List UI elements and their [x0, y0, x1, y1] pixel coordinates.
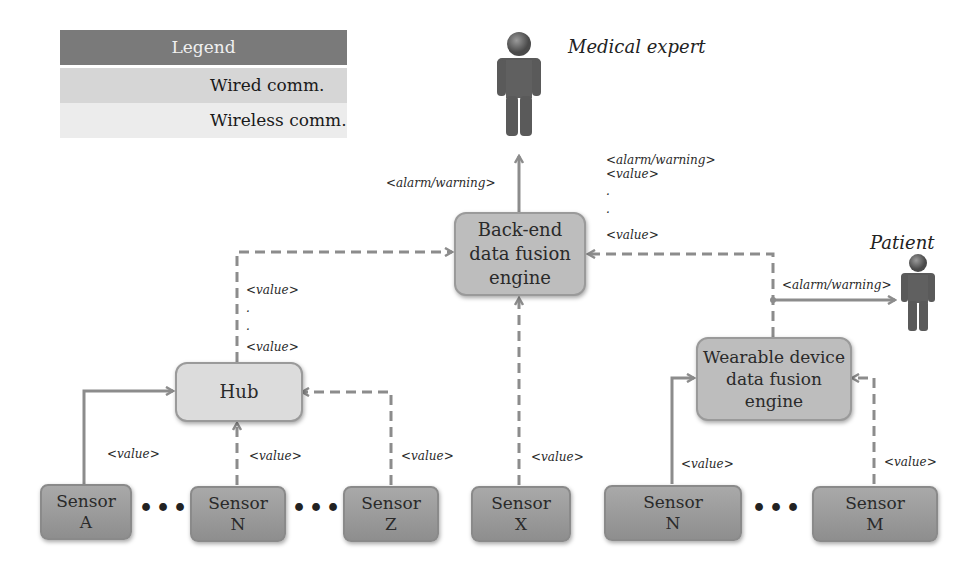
legend-title: Legend: [60, 30, 347, 65]
medical-expert-label: Medical expert: [568, 36, 705, 57]
sensor-m: SensorM: [812, 486, 938, 542]
backend-fusion-engine: Back-end data fusion engine: [454, 212, 586, 296]
label-sensor-m-value: <value>: [884, 455, 937, 469]
label-backend-to-expert: <alarm/warning>: [386, 176, 496, 190]
ellipsis-right: •••: [752, 494, 803, 520]
label-hub-to-backend-3: .: [246, 319, 250, 333]
sensor-n-right-line1: Sensor: [643, 492, 703, 513]
sensor-a-line1: Sensor: [56, 491, 116, 512]
label-hub-to-backend-1: <value>: [246, 283, 299, 297]
sensor-m-line2: M: [845, 514, 905, 535]
medical-expert-icon: [492, 30, 546, 140]
wearable-line-3: engine: [703, 390, 845, 412]
label-hub-to-backend-4: <value>: [246, 340, 299, 354]
legend: Legend Wired comm. Wireless comm.: [60, 30, 347, 138]
sensor-n-right-line2: N: [643, 513, 703, 534]
label-right-to-backend-5: <value>: [606, 228, 659, 242]
sensor-z-line2: Z: [361, 514, 421, 535]
wearable-fusion-engine: Wearable device data fusion engine: [696, 337, 852, 421]
sensor-n-left-line2: N: [208, 514, 268, 535]
legend-wired-label: Wired comm.: [210, 68, 324, 103]
sensor-x-line2: X: [491, 514, 551, 535]
label-hub-to-backend-2: .: [246, 301, 250, 315]
label-wearable-to-patient: <alarm/warning>: [782, 278, 892, 292]
legend-wired-row: Wired comm.: [60, 68, 347, 103]
backend-line-3: engine: [469, 266, 571, 290]
label-right-to-backend-2: <value>: [606, 167, 659, 181]
sensor-n-left-line1: Sensor: [208, 493, 268, 514]
label-sensor-n-right-value: <value>: [681, 457, 734, 471]
legend-wireless-row: Wireless comm.: [60, 103, 347, 138]
ellipsis-left-1: •••: [139, 494, 190, 520]
hub-label: Hub: [220, 380, 259, 404]
wearable-line-2: data fusion: [703, 368, 845, 390]
label-right-to-backend-3: .: [606, 184, 610, 198]
label-right-to-backend-1: <alarm/warning>: [606, 153, 716, 167]
sensor-x: SensorX: [471, 486, 571, 542]
sensor-z-line1: Sensor: [361, 493, 421, 514]
sensor-x-line1: Sensor: [491, 493, 551, 514]
sensor-z: SensorZ: [343, 486, 439, 542]
sensor-a: SensorA: [40, 484, 132, 540]
sensor-a-line2: A: [56, 512, 116, 533]
patient-icon: [898, 253, 938, 333]
sensor-n-right: SensorN: [604, 485, 742, 541]
sensor-n-left: SensorN: [190, 486, 286, 542]
label-sensor-z-value: <value>: [401, 449, 454, 463]
wearable-line-1: Wearable device: [703, 346, 845, 368]
legend-wireless-label: Wireless comm.: [210, 103, 347, 138]
label-right-to-backend-4: .: [606, 202, 610, 216]
patient-label: Patient: [870, 232, 935, 253]
label-sensor-a-value: <value>: [107, 447, 160, 461]
label-sensor-n-left-value: <value>: [249, 449, 302, 463]
label-sensor-x-value: <value>: [531, 450, 584, 464]
hub-node: Hub: [175, 362, 303, 422]
ellipsis-left-2: •••: [292, 494, 343, 520]
backend-line-2: data fusion: [469, 242, 571, 266]
sensor-m-line1: Sensor: [845, 493, 905, 514]
backend-line-1: Back-end: [469, 218, 571, 242]
